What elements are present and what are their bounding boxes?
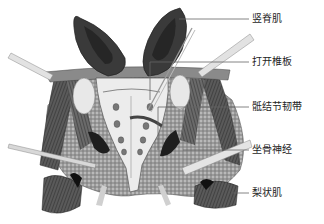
label-erector-spinae: 竖脊肌 bbox=[252, 13, 282, 25]
label-sacrotuberous-ligament: 骶结节韧带 bbox=[252, 101, 302, 113]
anatomy-figure: 竖脊肌 打开椎板 骶结节韧带 坐骨神经 梨状肌 bbox=[0, 0, 324, 224]
label-piriformis: 梨状肌 bbox=[252, 187, 282, 199]
label-sciatic-nerve: 坐骨神经 bbox=[252, 144, 292, 156]
label-open-lamina: 打开椎板 bbox=[252, 56, 292, 68]
